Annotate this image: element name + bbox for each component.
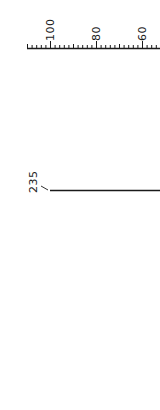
scale-ruler (27, 40, 160, 50)
scale-label-80: 80 (91, 26, 102, 41)
callout-leader-line (40, 180, 160, 196)
callout-label-235: 235 (28, 171, 39, 194)
scale-ticks-graphic (27, 40, 160, 50)
scale-label-60: 60 (137, 26, 148, 41)
scale-label-100: 100 (45, 19, 56, 42)
leader-line-graphic (40, 180, 160, 196)
